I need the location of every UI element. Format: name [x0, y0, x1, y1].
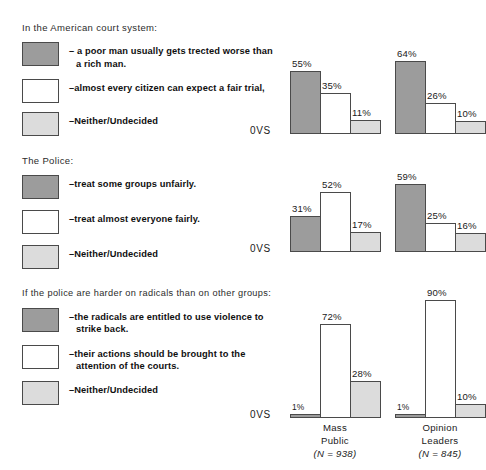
legend-label-line2: attention of the courts.	[69, 360, 245, 372]
bar-value-series2: 35%	[322, 80, 342, 91]
bar-series3	[455, 121, 486, 134]
category-label-line2: Leaders	[422, 435, 459, 446]
category-label-line1: Opinion	[422, 422, 457, 433]
legend-label: – a poor man usually gets trected worse …	[69, 42, 273, 70]
bar-value-series1: 64%	[397, 48, 417, 59]
bar-series3	[350, 120, 381, 134]
bar-series1	[395, 61, 426, 134]
bar-value-series3: 16%	[457, 220, 477, 231]
panel2-group-mass-public: 31% 52% 17%	[290, 155, 380, 252]
bar-value-series3: 10%	[457, 391, 477, 402]
category-label-line1: Mass	[323, 422, 347, 433]
bar-series1	[395, 184, 426, 252]
legend-item: –Neither/Undecided	[22, 245, 280, 269]
legend-label-line2: a rich man.	[69, 58, 273, 70]
panel3-axis-origin-label: 0VS	[250, 409, 271, 420]
legend-swatch-light-icon	[22, 112, 59, 136]
panel2-group-opinion-leaders: 59% 25% 16%	[395, 155, 485, 252]
bar-value-series1: 59%	[397, 171, 417, 182]
panel-the-police: The Police: –treat some groups unfairly.…	[0, 155, 480, 260]
category-sample-size: (N = 845)	[395, 448, 485, 461]
legend-label-line1: –Neither/Undecided	[69, 249, 158, 259]
legend-label-line1: –almost every citizen can expect a fair …	[69, 83, 265, 93]
legend-label: –treat almost everyone fairly.	[69, 210, 200, 225]
bar-series2	[320, 324, 351, 418]
bar-value-series2: 26%	[427, 90, 447, 101]
category-label-line2: Public	[321, 435, 349, 446]
bar-value-series1: 1%	[292, 402, 305, 412]
bar-value-series1: 1%	[397, 402, 410, 412]
legend-label-line1: –Neither/Undecided	[69, 116, 158, 126]
panel3-group-mass-public: 1% 72% 28%	[290, 288, 380, 418]
category-sample-size: (N = 938)	[290, 448, 380, 461]
legend-item: –Neither/Undecided	[22, 112, 280, 136]
legend-label-line2: strike back.	[69, 323, 264, 335]
legend-label-line1: –their actions should be brought to the	[69, 349, 245, 359]
bar-series2	[425, 103, 456, 134]
bar-value-series1: 55%	[292, 58, 312, 69]
bar-series1	[290, 414, 321, 418]
bar-series1	[290, 71, 321, 134]
panel3-chart: 0VS 1% 72% 28% 1% 90% 10%	[250, 288, 480, 418]
bar-series3	[455, 233, 486, 252]
legend-label-line1: –treat some groups unfairly.	[69, 179, 196, 189]
panel1-group-opinion-leaders: 64% 26% 10%	[395, 22, 485, 134]
panel1-chart: 0VS 55% 35% 11% 64% 26% 10%	[250, 22, 480, 134]
legend-label: –Neither/Undecided	[69, 245, 158, 260]
legend-label: –Neither/Undecided	[69, 112, 158, 127]
legend-label-line1: –Neither/Undecided	[69, 385, 158, 395]
legend-swatch-white-icon	[22, 210, 59, 234]
panel-court-system: In the American court system: – a poor m…	[0, 22, 480, 140]
bar-series2	[320, 192, 351, 252]
category-label-opinion-leaders: Opinion Leaders (N = 845)	[395, 422, 485, 461]
panel2-chart: 0VS 31% 52% 17% 59% 25% 16%	[250, 155, 480, 252]
legend-label-line1: –the radicals are entitled to use violen…	[69, 312, 264, 322]
bar-series2	[320, 93, 351, 134]
bar-value-series2: 90%	[427, 287, 447, 298]
legend-swatch-light-icon	[22, 245, 59, 269]
legend-label: –Neither/Undecided	[69, 381, 158, 396]
legend-label: –almost every citizen can expect a fair …	[69, 79, 265, 94]
legend-swatch-white-icon	[22, 345, 59, 369]
bar-value-series2: 25%	[427, 210, 447, 221]
legend-item: – a poor man usually gets trected worse …	[22, 42, 280, 70]
bar-value-series3: 28%	[352, 368, 372, 379]
bar-series3	[350, 381, 381, 418]
legend-swatch-white-icon	[22, 79, 59, 103]
bar-series1	[290, 216, 321, 252]
bar-series1	[395, 414, 426, 418]
legend-swatch-dark-icon	[22, 175, 59, 199]
bar-series3	[455, 404, 486, 418]
legend-swatch-light-icon	[22, 381, 59, 405]
bar-series2	[425, 223, 456, 252]
legend-item: –almost every citizen can expect a fair …	[22, 79, 280, 103]
legend-label: –their actions should be brought to the …	[69, 345, 245, 373]
panel2-legend: The Police: –treat some groups unfairly.…	[22, 155, 280, 275]
legend-label: –treat some groups unfairly.	[69, 175, 196, 190]
legend-label-line1: –treat almost everyone fairly.	[69, 214, 200, 224]
legend-swatch-dark-icon	[22, 42, 59, 66]
bar-value-series3: 10%	[457, 108, 477, 119]
bar-series2	[425, 300, 456, 418]
legend-label: –the radicals are entitled to use violen…	[69, 308, 264, 336]
bar-value-series1: 31%	[292, 203, 312, 214]
bar-value-series2: 72%	[322, 311, 342, 322]
panel2-axis-origin-label: 0VS	[250, 243, 271, 254]
panel1-question: In the American court system:	[22, 22, 280, 33]
category-label-mass-public: Mass Public (N = 938)	[290, 422, 380, 461]
legend-item: –treat almost everyone fairly.	[22, 210, 280, 234]
legend-item: –treat some groups unfairly.	[22, 175, 280, 199]
bar-series3	[350, 232, 381, 252]
bar-value-series3: 17%	[352, 219, 372, 230]
panel1-axis-origin-label: 0VS	[250, 125, 271, 136]
panel1-group-mass-public: 55% 35% 11%	[290, 22, 380, 134]
bar-value-series2: 52%	[322, 179, 342, 190]
legend-label-line1: – a poor man usually gets trected worse …	[69, 46, 273, 56]
legend-swatch-dark-icon	[22, 308, 59, 332]
panel1-legend: In the American court system: – a poor m…	[22, 22, 280, 142]
panel-radicals: If the police are harder on radicals tha…	[0, 288, 480, 470]
bar-value-series3: 11%	[352, 107, 371, 118]
panel2-question: The Police:	[22, 155, 280, 166]
panel3-group-opinion-leaders: 1% 90% 10%	[395, 288, 485, 418]
